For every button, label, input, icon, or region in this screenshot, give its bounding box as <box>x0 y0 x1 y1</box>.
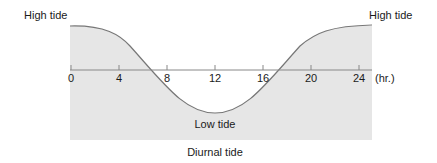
svg-text:24: 24 <box>353 72 365 84</box>
svg-text:8: 8 <box>164 72 170 84</box>
svg-text:20: 20 <box>305 72 317 84</box>
svg-text:16: 16 <box>257 72 269 84</box>
unit-label: (hr.) <box>375 72 395 84</box>
svg-text:12: 12 <box>209 72 221 84</box>
high-tide-right-label: High tide <box>369 9 412 21</box>
low-tide-label: Low tide <box>195 118 236 130</box>
svg-text:0: 0 <box>68 72 74 84</box>
svg-text:4: 4 <box>116 72 122 84</box>
diagram-title: Diurnal tide <box>187 146 243 158</box>
diurnal-tide-diagram: 0 4 8 12 16 20 24 (hr.) High tide High t… <box>0 0 437 163</box>
high-tide-left-label: High tide <box>24 9 67 21</box>
